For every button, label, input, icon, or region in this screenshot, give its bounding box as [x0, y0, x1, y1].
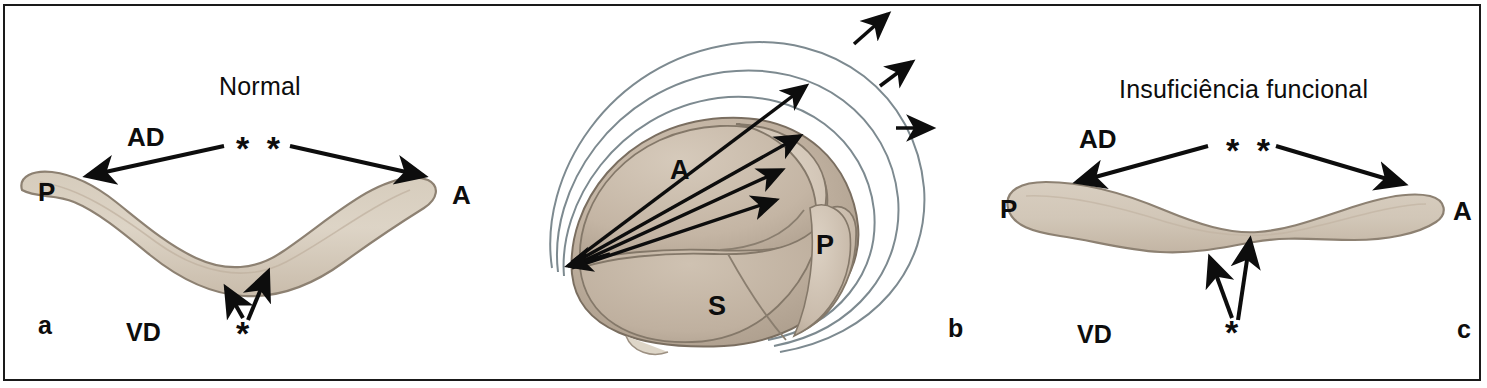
panel-a-coaptation-marker: * * — [236, 131, 284, 165]
panel-a-graphics — [0, 0, 500, 388]
panel-c-letter: c — [1457, 317, 1471, 342]
panel-a-title: Normal — [219, 74, 301, 99]
panel-a-label-p: P — [38, 179, 55, 205]
panel-b-graphics — [480, 0, 1000, 388]
expansion-arrow-top — [854, 14, 888, 44]
figure-container: Normal AD * * P A * VD a — [0, 0, 1487, 388]
coaptation-gap-arrow-right — [1238, 240, 1250, 320]
panel-a: Normal AD * * P A * VD a — [0, 0, 500, 388]
panel-c-label-p: P — [1000, 196, 1017, 222]
panel-c-label-ad: AD — [1079, 126, 1117, 152]
panel-c-graphics — [960, 0, 1487, 388]
panel-c-label-vd: VD — [1077, 322, 1112, 347]
leaflet-shape-normal — [21, 172, 435, 297]
panel-c: Insuficiência funcional AD * * P A * VD … — [960, 0, 1487, 388]
panel-b-label-p: P — [816, 232, 834, 259]
panel-c-title: Insuficiência funcional — [1119, 77, 1368, 102]
panel-c-coaptation-marker: * * — [1226, 133, 1274, 167]
panel-c-leaflet-marker: * — [1225, 315, 1238, 349]
panel-b-label-s: S — [708, 293, 726, 320]
coaptation-gap-arrow-left — [1210, 258, 1232, 318]
panel-a-label-a: A — [452, 182, 471, 208]
panel-a-letter: a — [38, 313, 52, 338]
panel-a-label-vd: VD — [126, 320, 161, 345]
panel-a-label-ad: AD — [127, 124, 165, 150]
panel-a-leaflet-marker: * — [236, 316, 249, 350]
expansion-arrow-middle — [880, 62, 912, 86]
annulus-arrow-right — [1276, 146, 1404, 184]
leaflet-shape-insufficient — [1007, 182, 1443, 252]
panel-c-label-a: A — [1453, 198, 1472, 224]
panel-b-label-a: A — [670, 157, 690, 184]
annulus-arrow-right — [290, 146, 424, 176]
panel-b: A P S b — [480, 0, 1000, 388]
